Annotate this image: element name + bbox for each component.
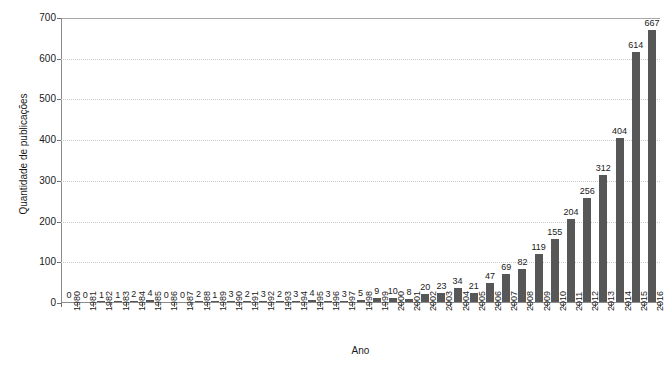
y-axis-line [61,18,62,304]
x-axis-label-2000: 2000 [397,291,406,311]
x-axis-label-2004: 2004 [462,291,471,311]
gridline [61,140,660,141]
x-axis-label-2012: 2012 [591,291,600,311]
y-axis-label: 600 [4,54,56,64]
x-axis-label-1984: 1984 [138,291,147,311]
x-axis-label-1998: 1998 [365,291,374,311]
y-axis-tick [57,140,61,141]
x-axis-label-2007: 2007 [510,291,519,311]
x-axis-label-2003: 2003 [445,291,454,311]
x-axis-label-1995: 1995 [316,291,325,311]
x-axis-label-2011: 2011 [575,292,584,311]
y-axis-label: 400 [4,135,56,145]
x-axis-label-1982: 1982 [105,291,114,311]
y-axis-label: 700 [4,13,56,23]
x-axis-label-2002: 2002 [429,291,438,311]
x-axis-label-1994: 1994 [300,291,309,311]
x-axis-label-1985: 1985 [154,291,163,311]
y-axis-label: 500 [4,94,56,104]
x-axis-label-2010: 2010 [559,291,568,311]
y-axis-label: 300 [4,176,56,186]
x-axis-label-2001: 2001 [413,291,422,311]
bar [583,198,591,302]
x-axis-label-1996: 1996 [332,291,341,311]
y-axis-label: 100 [4,257,56,267]
plot-top-rule [61,18,660,19]
bar-value-label: 204 [557,208,585,217]
bar [648,30,656,302]
gridline [61,59,660,60]
bar [567,219,575,302]
x-axis-label-2016: 2016 [656,291,665,311]
y-axis-tick [57,262,61,263]
bar-value-label: 404 [606,127,634,136]
bar-value-label: 667 [638,19,666,28]
x-axis-label-1992: 1992 [267,291,276,311]
x-axis-label-1981: 1981 [89,291,98,311]
bar-chart: Quantidade de publicações 00112400213232… [0,0,668,366]
x-axis-label-1980: 1980 [73,291,82,311]
x-axis-label-1986: 1986 [170,291,179,311]
bar-value-label: 312 [589,164,617,173]
bar-value-label: 614 [622,41,650,50]
x-axis-label-2013: 2013 [607,291,616,311]
x-axis-label-1991: 1991 [251,291,260,311]
x-axis-label-1989: 1989 [219,291,228,311]
gridline [61,181,660,182]
x-axis-label-1987: 1987 [186,291,195,311]
x-axis-label-1997: 1997 [348,291,357,311]
x-axis-label-2015: 2015 [640,291,649,311]
x-axis-label-2008: 2008 [526,291,535,311]
x-axis-label-1990: 1990 [235,291,244,311]
x-axis-label-1983: 1983 [122,291,131,311]
y-axis-tick [57,222,61,223]
x-axis-title: Ano [61,345,660,356]
x-axis-label-2006: 2006 [494,291,503,311]
x-axis-label-1993: 1993 [284,291,293,311]
plot-area: 0011240021323234335910820233421476982119… [61,18,660,303]
bar-value-label: 119 [525,243,553,252]
x-axis-label-1999: 1999 [381,291,390,311]
y-axis-label: 200 [4,217,56,227]
bar-value-label: 256 [573,187,601,196]
x-axis-label-1988: 1988 [203,291,212,311]
cropped-caption [0,360,668,366]
y-axis-tick [57,18,61,19]
y-axis-tick [57,99,61,100]
x-axis-line [61,302,660,303]
bar [599,175,607,302]
bar-value-label: 47 [476,272,504,281]
x-axis-tick [61,303,62,307]
x-axis-label-2014: 2014 [624,291,633,311]
bar [616,138,624,302]
bar-value-label: 155 [541,228,569,237]
bar [632,52,640,302]
bar-value-label: 82 [508,258,536,267]
y-axis-tick [57,181,61,182]
y-axis-tick [57,59,61,60]
gridline [61,99,660,100]
x-axis-label-2005: 2005 [478,291,487,311]
x-axis-label-2009: 2009 [543,291,552,311]
y-axis-label: 0 [4,298,56,308]
